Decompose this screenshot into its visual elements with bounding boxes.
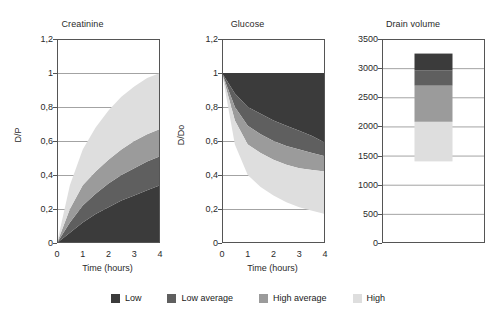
y-tick-mark [218,141,222,142]
legend-swatch-icon [259,294,268,303]
y-tick-mark [53,209,57,210]
x-axis-label-glucose: Time (hours) [220,263,325,273]
y-tick-mark [218,107,222,108]
y-tick-label: 2000 [338,121,378,131]
legend: LowLow averageHigh averageHigh [0,289,496,307]
y-tick-label: 1,2 [188,34,218,44]
x-tick-label: 1 [238,249,258,259]
y-tick-label: 0,6 [23,136,53,146]
plot-area-glucose [222,39,325,243]
panel-title-glucose: Glucose [165,19,330,29]
y-tick-mark [378,39,382,40]
y-tick-mark [378,243,382,244]
panel-glucose: Glucose D/Do Time (hours) 00,20,40,60,81… [165,0,330,285]
y-tick-label: 0,4 [188,170,218,180]
y-tick-mark [378,68,382,69]
x-tick-label: 3 [124,249,144,259]
legend-swatch-icon [353,294,362,303]
legend-label: Low [125,293,142,303]
y-tick-label: 1000 [338,180,378,190]
x-tick-label: 1 [73,249,93,259]
plot-area-creatinine [57,39,160,243]
y-tick-label: 0 [23,238,53,248]
y-tick-label: 1 [23,68,53,78]
stacked-bar [415,54,453,162]
y-tick-mark [53,175,57,176]
x-tick-label: 0 [47,249,67,259]
legend-item-low-average[interactable]: Low average [167,293,233,303]
legend-item-high-average[interactable]: High average [259,293,327,303]
y-tick-mark [218,175,222,176]
y-tick-label: 1,2 [23,34,53,44]
y-tick-mark [53,39,57,40]
y-tick-label: 2500 [338,92,378,102]
x-tick-label: 2 [264,249,284,259]
y-axis-label-glucose: D/Do [176,113,186,157]
y-tick-mark [53,141,57,142]
bar-segment-low [415,54,453,71]
y-tick-label: 0,2 [188,204,218,214]
panel-title-drain-volume: Drain volume [330,19,496,29]
y-tick-label: 0,8 [23,102,53,112]
legend-item-low[interactable]: Low [111,293,142,303]
y-axis-label-creatinine: D/P [13,113,23,157]
y-tick-label: 0,8 [188,102,218,112]
y-tick-label: 3000 [338,63,378,73]
y-tick-label: 0 [188,238,218,248]
y-tick-label: 1 [188,68,218,78]
bar-segment-high [415,122,453,162]
y-tick-label: 0 [338,238,378,248]
legend-swatch-icon [111,294,120,303]
chart-svg-drain-volume [382,39,485,243]
plot-area-drain-volume [382,39,485,243]
y-tick-mark [218,39,222,40]
panel-title-creatinine: Creatinine [0,19,165,29]
y-tick-label: 1500 [338,151,378,161]
panel-creatinine: Creatinine D/P Time (hours) 00,20,40,60,… [0,0,165,285]
x-tick-label: 2 [99,249,119,259]
chart-svg-creatinine [57,39,160,243]
figure-root: Creatinine D/P Time (hours) 00,20,40,60,… [0,0,496,322]
y-tick-label: 0,4 [23,170,53,180]
y-tick-mark [378,185,382,186]
y-tick-label: 0,2 [23,204,53,214]
y-tick-mark [218,243,222,244]
y-tick-mark [378,156,382,157]
legend-label: High average [273,293,327,303]
y-tick-mark [53,73,57,74]
legend-label: High [367,293,386,303]
y-tick-label: 3500 [338,34,378,44]
x-axis-label-creatinine: Time (hours) [55,263,160,273]
y-tick-mark [53,107,57,108]
y-tick-mark [378,126,382,127]
chart-svg-glucose [222,39,325,243]
bar-segment-high-average [415,86,453,122]
y-tick-mark [378,97,382,98]
legend-item-high[interactable]: High [353,293,386,303]
y-tick-mark [378,214,382,215]
panel-drain-volume: Drain volume 050010001500200025003000350… [330,0,496,285]
y-tick-mark [53,243,57,244]
x-tick-label: 0 [212,249,232,259]
x-tick-label: 3 [289,249,309,259]
y-tick-label: 0,6 [188,136,218,146]
y-tick-mark [218,73,222,74]
bar-segment-low-average [415,70,453,85]
y-tick-label: 500 [338,209,378,219]
y-tick-mark [218,209,222,210]
legend-swatch-icon [167,294,176,303]
legend-label: Low average [181,293,233,303]
